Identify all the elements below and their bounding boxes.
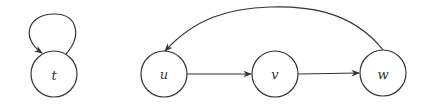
node-t-label: t (51, 69, 56, 82)
edge-v-w (298, 73, 359, 74)
node-v-label: v (271, 68, 278, 81)
node-w-label: w (377, 68, 388, 81)
node-u-label: u (160, 68, 168, 81)
graph-diagram: t u v w (0, 0, 430, 107)
edge-w-u-arc (165, 7, 383, 51)
edge-t-t-self-loop (29, 14, 75, 54)
graph-svg (0, 0, 430, 107)
